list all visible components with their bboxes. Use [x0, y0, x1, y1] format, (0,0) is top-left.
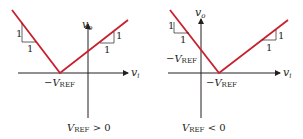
- caption: VREF > 0: [67, 122, 111, 134]
- slope-right-run: 1: [104, 44, 110, 55]
- x-axis-label: vi: [283, 66, 291, 80]
- vertex-label: −VREF: [44, 77, 75, 89]
- y-axis-label: vo: [195, 6, 205, 20]
- caption: VREF < 0: [182, 122, 226, 134]
- intercept-label: −VREF: [166, 53, 197, 65]
- slope-right-run: 1: [266, 42, 272, 53]
- transfer-curve: [12, 10, 128, 73]
- slope-right-rise: 1: [278, 30, 284, 41]
- x-axis-label: vi: [131, 66, 139, 80]
- slope-left-run: 1: [27, 43, 33, 54]
- figure-vref-positive: 1 1 1 1 vo vi −VREF VREF > 0: [12, 10, 139, 134]
- figure-vref-negative: 1 1 1 1 vo vi −VREF −VREF VREF < 0: [166, 6, 291, 134]
- slope-left-rise: 1: [168, 20, 174, 31]
- vertex-label: −VREF: [206, 77, 237, 89]
- slope-left-run: 1: [180, 34, 186, 45]
- diagram-canvas: 1 1 1 1 vo vi −VREF VREF > 0 1 1 1 1 vo …: [0, 0, 303, 139]
- slope-right-rise: 1: [116, 30, 122, 41]
- y-axis-label: vo: [82, 18, 92, 32]
- slope-left-rise: 1: [16, 28, 22, 39]
